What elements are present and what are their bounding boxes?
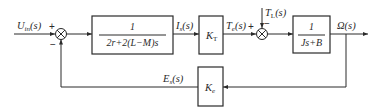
svg-text:1: 1 — [130, 21, 135, 32]
current-signal: Is(s) — [173, 20, 199, 34]
mechanical-transfer-block: 1 Js+B — [293, 16, 330, 53]
svg-text:2r+2(L−M)s: 2r+2(L−M)s — [107, 37, 159, 49]
load-torque-signal: TL(s) − — [262, 7, 287, 29]
svg-text:+: + — [248, 21, 254, 32]
svg-text:Uin(s): Uin(s) — [17, 20, 42, 33]
svg-text:Te(s): Te(s) — [226, 20, 247, 33]
svg-text:1: 1 — [309, 21, 314, 32]
current-transfer-block: 1 2r+2(L−M)s — [92, 16, 173, 54]
svg-text:Es(s): Es(s) — [162, 73, 184, 86]
torque-constant-block: KT — [199, 16, 223, 54]
svg-text:Ω(s): Ω(s) — [337, 20, 356, 32]
minus-sign: − — [50, 39, 56, 50]
plus-sign: + — [49, 21, 55, 32]
summing-junction-2 — [257, 29, 268, 40]
output-signal: Ω(s) — [330, 20, 368, 34]
svg-text:Js+B: Js+B — [301, 37, 322, 48]
block-diagram: Uin(s) + − 1 2r+2(L−M)s Is(s) KT Te(s) — [0, 0, 377, 112]
svg-text:Is(s): Is(s) — [175, 20, 194, 33]
electromagnetic-torque-signal: Te(s) + — [223, 20, 256, 34]
svg-text:−: − — [264, 18, 270, 29]
summing-junction-1: + − — [49, 21, 67, 50]
